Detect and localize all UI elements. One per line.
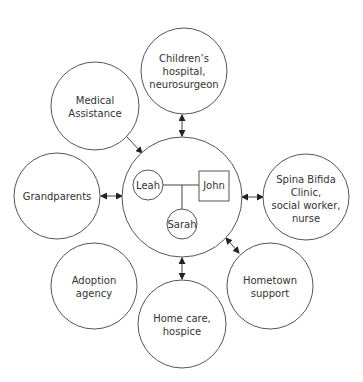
svg-text:Hometown: Hometown bbox=[243, 275, 297, 286]
svg-text:agency: agency bbox=[76, 288, 112, 299]
svg-text:nurse: nurse bbox=[292, 213, 320, 224]
svg-text:Leah: Leah bbox=[136, 180, 160, 191]
node-spina-bifida-clinic: Spina Bifida Clinic, social worker, nurs… bbox=[263, 154, 349, 240]
svg-text:John: John bbox=[202, 180, 225, 191]
svg-text:Medical: Medical bbox=[76, 95, 114, 106]
svg-text:Grandparents: Grandparents bbox=[23, 191, 92, 202]
node-home-care: Home care, hospice bbox=[138, 280, 226, 368]
svg-text:hospital,: hospital, bbox=[163, 66, 206, 77]
member-sarah: Sarah bbox=[167, 209, 197, 239]
family-circle: Leah John Sarah bbox=[122, 137, 242, 257]
arrow-hometown bbox=[226, 238, 239, 253]
svg-text:neurosurgeon: neurosurgeon bbox=[149, 79, 218, 90]
svg-text:social worker,: social worker, bbox=[272, 200, 341, 211]
svg-text:Clinic,: Clinic, bbox=[291, 187, 321, 198]
svg-text:Adoption: Adoption bbox=[72, 275, 117, 286]
node-medical-assistance: Medical Assistance bbox=[51, 62, 139, 150]
ecomap-diagram: Children’s hospital, neurosurgeon Medica… bbox=[0, 0, 363, 382]
svg-text:Spina Bifida: Spina Bifida bbox=[276, 174, 336, 185]
arrow-medical-assistance bbox=[127, 137, 142, 153]
svg-text:Children’s: Children’s bbox=[159, 53, 209, 64]
svg-text:hospice: hospice bbox=[163, 326, 201, 337]
node-hometown-support: Hometown support bbox=[227, 243, 313, 329]
svg-text:Sarah: Sarah bbox=[167, 219, 196, 230]
node-adoption-agency: Adoption agency bbox=[51, 243, 137, 329]
member-leah: Leah bbox=[133, 170, 163, 200]
svg-text:Home care,: Home care, bbox=[153, 313, 211, 324]
node-grandparents: Grandparents bbox=[14, 153, 100, 239]
member-john: John bbox=[199, 171, 229, 201]
svg-text:support: support bbox=[251, 288, 289, 299]
svg-text:Assistance: Assistance bbox=[68, 108, 121, 119]
node-childrens-hospital: Children’s hospital, neurosurgeon bbox=[141, 28, 227, 114]
